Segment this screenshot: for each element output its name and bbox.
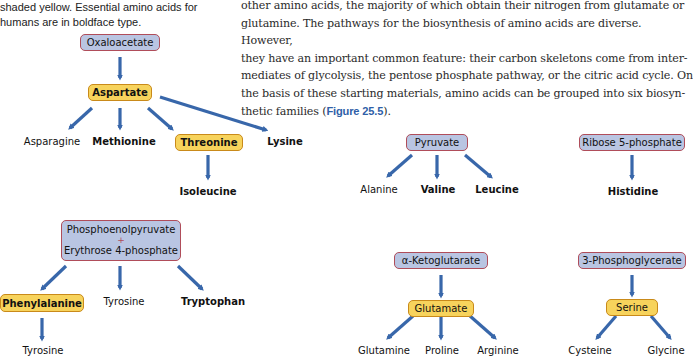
- precursor-pep-e4p: Phosphoenolpyruvate + Erythrose 4-phosph…: [61, 220, 181, 261]
- product-tryptophan: Tryptophan: [181, 296, 245, 307]
- plus-sign: +: [117, 236, 125, 245]
- precursor-ribose-5-phosphate: Ribose 5-phosphate: [579, 134, 685, 151]
- product-glutamine: Glutamine: [358, 345, 410, 356]
- intermediate-aspartate: Aspartate: [88, 84, 152, 101]
- intermediate-glutamate: Glutamate: [408, 300, 474, 317]
- product-threonine: Threonine: [175, 134, 243, 151]
- product-proline: Proline: [425, 345, 459, 356]
- product-tyrosine-from-phe: Tyrosine: [23, 345, 64, 356]
- product-alanine: Alanine: [360, 184, 397, 195]
- product-methionine: Methionine: [92, 136, 155, 147]
- product-phenylalanine: Phenylalanine: [0, 294, 84, 312]
- product-arginine: Arginine: [477, 345, 519, 356]
- product-leucine: Leucine: [475, 184, 519, 195]
- product-asparagine: Asparagine: [24, 136, 80, 147]
- product-isoleucine: Isoleucine: [179, 186, 236, 197]
- product-lysine: Lysine: [267, 136, 303, 147]
- precursor-3-phosphoglycerate: 3-Phosphoglycerate: [578, 252, 686, 269]
- product-histidine: Histidine: [608, 186, 658, 197]
- product-valine: Valine: [421, 184, 456, 195]
- product-tyrosine: Tyrosine: [104, 296, 145, 307]
- product-glycine: Glycine: [647, 345, 684, 356]
- precursor-pyruvate: Pyruvate: [406, 134, 468, 151]
- product-cysteine: Cysteine: [568, 345, 611, 356]
- intermediate-serine: Serine: [606, 299, 658, 316]
- precursor-e4p: Erythrose 4-phosphate: [64, 245, 178, 257]
- precursor-alpha-ketoglutarate: α-Ketoglutarate: [394, 252, 488, 269]
- precursor-oxaloacetate: Oxaloacetate: [80, 34, 160, 51]
